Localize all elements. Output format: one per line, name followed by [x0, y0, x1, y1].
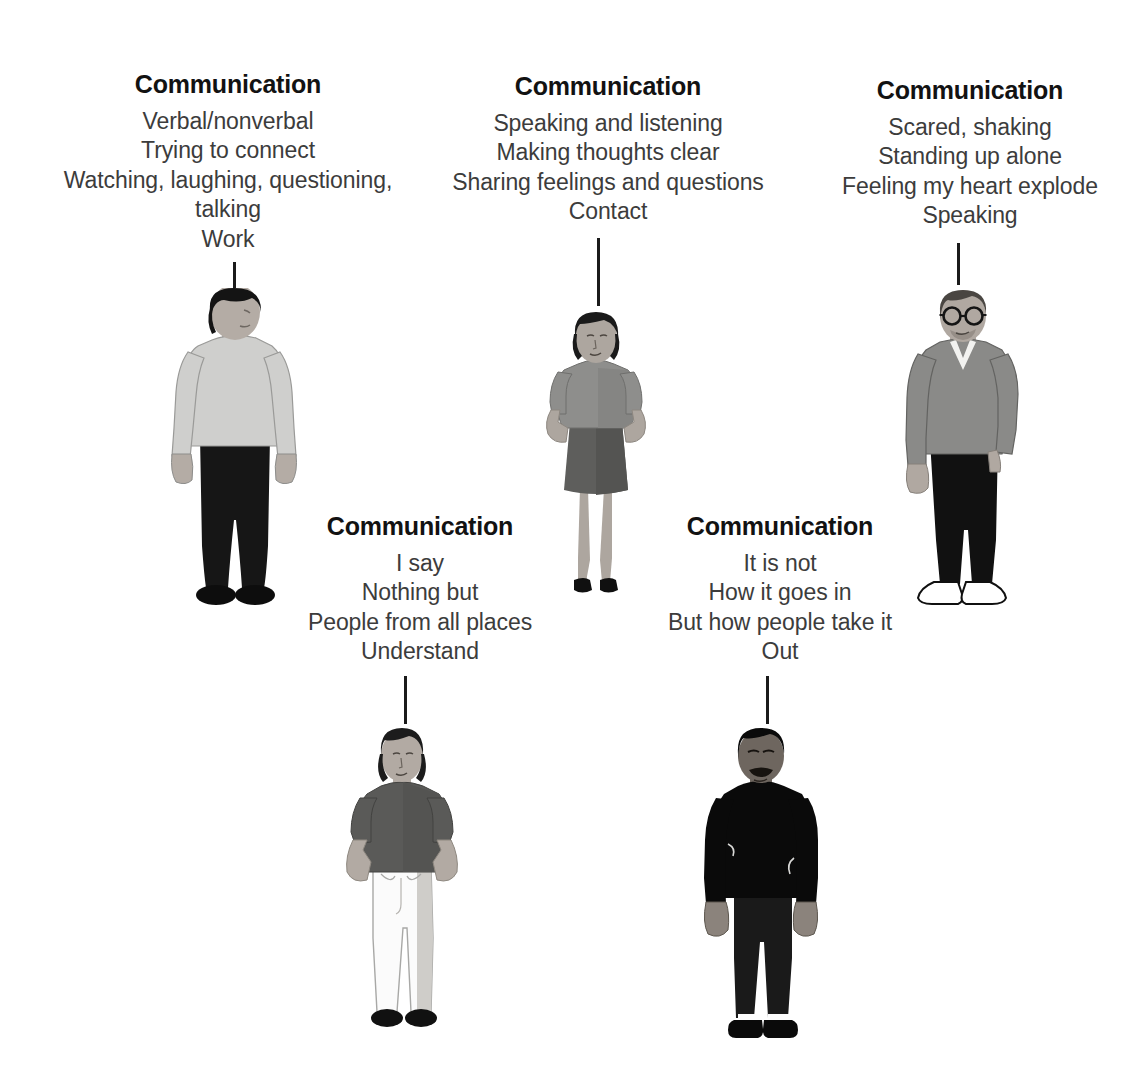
poem-line: I say [280, 549, 560, 578]
poem-lines-3: Scared, shaking Standing up alone Feelin… [800, 113, 1140, 231]
poem-title-4: Communication [280, 510, 560, 542]
poem-line: Scared, shaking [800, 113, 1140, 142]
poem-line: But how people take it [640, 608, 920, 637]
poster-canvas: Communication Verbal/nonverbal Trying to… [0, 0, 1147, 1075]
connector-stem-4 [404, 676, 407, 724]
figure-standing-man-black-shirt [692, 728, 828, 1050]
figure-standing-woman-white-pants [333, 728, 469, 1048]
poem-block-5: Communication It is not How it goes in B… [640, 510, 920, 667]
connector-stem-3 [957, 243, 960, 285]
poem-line: Speaking [800, 201, 1140, 230]
figure-standing-woman-skirt [532, 310, 660, 610]
poem-title-5: Communication [640, 510, 920, 542]
figure-2-illustration [532, 310, 660, 610]
poem-line: Verbal/nonverbal [18, 107, 438, 136]
poem-title-3: Communication [800, 74, 1140, 106]
poem-lines-1: Verbal/nonverbal Trying to connect Watch… [18, 107, 438, 254]
poem-lines-4: I say Nothing but People from all places… [280, 549, 560, 667]
poem-line: Contact [408, 197, 808, 226]
poem-block-1: Communication Verbal/nonverbal Trying to… [18, 68, 438, 254]
figure-standing-man-glasses [898, 290, 1026, 616]
figure-3-illustration [898, 290, 1026, 616]
connector-stem-2 [597, 238, 600, 306]
figure-5-illustration [692, 728, 828, 1050]
poem-line: Out [640, 637, 920, 666]
poem-line: People from all places [280, 608, 560, 637]
poem-line: Watching, laughing, questioning, talking [18, 166, 438, 225]
connector-stem-5 [766, 676, 769, 724]
poem-line: Work [18, 225, 438, 254]
poem-line: It is not [640, 549, 920, 578]
figure-1-illustration [160, 288, 310, 613]
poem-block-4: Communication I say Nothing but People f… [280, 510, 560, 667]
poem-title-1: Communication [18, 68, 438, 100]
figure-standing-man-light-sweater [160, 288, 310, 613]
poem-block-3: Communication Scared, shaking Standing u… [800, 74, 1140, 231]
poem-line: Feeling my heart explode [800, 172, 1140, 201]
poem-block-2: Communication Speaking and listening Mak… [408, 70, 808, 227]
poem-line: Speaking and listening [408, 109, 808, 138]
poem-line: How it goes in [640, 578, 920, 607]
poem-line: Nothing but [280, 578, 560, 607]
poem-line: Sharing feelings and questions [408, 168, 808, 197]
poem-line: Trying to connect [18, 136, 438, 165]
poem-lines-2: Speaking and listening Making thoughts c… [408, 109, 808, 227]
figure-4-illustration [333, 728, 469, 1048]
poem-line: Understand [280, 637, 560, 666]
poem-line: Making thoughts clear [408, 138, 808, 167]
poem-lines-5: It is not How it goes in But how people … [640, 549, 920, 667]
poem-title-2: Communication [408, 70, 808, 102]
poem-line: Standing up alone [800, 142, 1140, 171]
